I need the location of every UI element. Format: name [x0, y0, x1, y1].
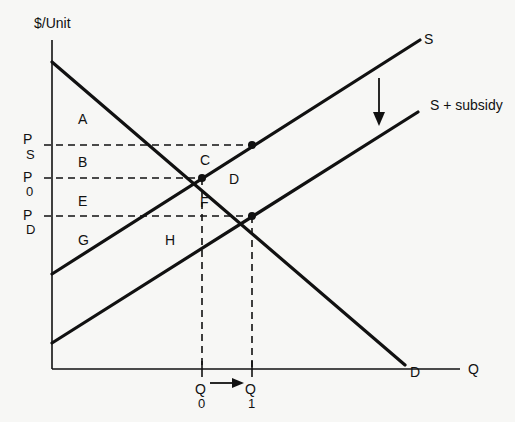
p0-label-sub: 0 [26, 184, 33, 199]
y-axis-label: $/Unit [34, 15, 71, 31]
q1-label: Q [245, 381, 256, 397]
region-e-label: E [78, 193, 87, 209]
ps-label: P [23, 131, 32, 147]
region-a-label: A [78, 111, 88, 127]
region-b-label: B [78, 154, 87, 170]
original-equilibrium-point [198, 174, 206, 182]
quantity-increase-arrow-icon [210, 378, 244, 388]
q0-label-sub: 0 [198, 396, 205, 411]
region-h-label: H [165, 232, 175, 248]
pd-label: P [23, 207, 32, 223]
supply-subsidy-label: S + subsidy [430, 97, 503, 113]
region-f-label: F [200, 194, 209, 210]
supply-curve-label: S [424, 31, 433, 47]
ps-label-sub: S [26, 147, 35, 162]
new-equilibrium-point [248, 212, 256, 220]
demand-curve [52, 62, 405, 365]
pd-label-sub: D [26, 222, 35, 237]
sellers-price-point [248, 141, 256, 149]
subsidy-diagram: $/Unit Q S S + subsidy D P S P 0 P D Q 0… [0, 0, 515, 422]
supply-curve [52, 40, 420, 274]
q0-label: Q [195, 381, 206, 397]
demand-curve-label: D [410, 364, 420, 380]
region-g-label: G [78, 232, 89, 248]
region-c-label: C [200, 152, 210, 168]
supply-shift-arrow-icon [373, 78, 385, 126]
x-axis-label: Q [468, 361, 479, 377]
q1-label-sub: 1 [248, 396, 255, 411]
supply-subsidy-curve [52, 112, 418, 343]
p0-label: P [23, 169, 32, 185]
region-d-label: D [229, 171, 239, 187]
